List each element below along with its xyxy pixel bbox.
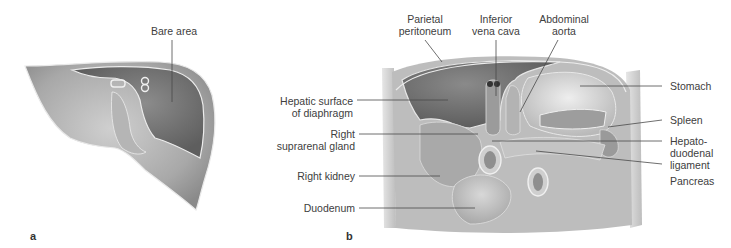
label-line: aorta xyxy=(534,25,594,37)
label-line: Parietal xyxy=(394,13,456,25)
label-text: Duodenum xyxy=(304,202,355,214)
label-line: Hepato- xyxy=(670,135,713,147)
label-text: Spleen xyxy=(670,114,703,126)
label-right-kidney: Right kidney xyxy=(258,170,355,182)
label-inferior-vena-cava: Inferior vena cava xyxy=(468,13,524,37)
label-line: Inferior xyxy=(468,13,524,25)
label-line: Abdominal xyxy=(534,13,594,25)
label-text: Pancreas xyxy=(670,175,714,187)
label-hepatoduodenal-ligament: Hepato- duodenal ligament xyxy=(670,135,713,171)
label-spleen: Spleen xyxy=(670,114,703,126)
label-pancreas: Pancreas xyxy=(670,175,714,187)
label-line: suprarenal gland xyxy=(258,140,355,152)
label-text: Bare area xyxy=(151,25,197,37)
label-parietal-peritoneum: Parietal peritoneum xyxy=(394,13,456,37)
label-bare-area: Bare area xyxy=(151,25,195,37)
label-line: Hepatic surface xyxy=(258,95,353,107)
panel-letter-a: a xyxy=(30,230,36,242)
label-line: Right xyxy=(258,128,355,140)
label-duodenum: Duodenum xyxy=(258,202,355,214)
label-line: duodenal xyxy=(670,147,713,159)
label-line: vena cava xyxy=(468,25,524,37)
label-text: Stomach xyxy=(670,80,711,92)
label-hepatic-surface-of-diaphragm: Hepatic surface of diaphragm xyxy=(258,95,353,119)
label-line: ligament xyxy=(670,159,713,171)
label-line: peritoneum xyxy=(394,25,456,37)
anatomical-figure: Bare area a Parietal peritoneum Inferior… xyxy=(0,0,731,248)
label-right-suprarenal-gland: Right suprarenal gland xyxy=(258,128,355,152)
label-stomach: Stomach xyxy=(670,80,711,92)
label-abdominal-aorta: Abdominal aorta xyxy=(534,13,594,37)
illustration-artwork xyxy=(0,0,731,248)
label-line: of diaphragm xyxy=(258,107,353,119)
abdomen-drawing xyxy=(382,56,642,233)
panel-letter-b: b xyxy=(346,230,353,242)
liver-drawing xyxy=(25,62,215,210)
label-text: Right kidney xyxy=(297,170,355,182)
